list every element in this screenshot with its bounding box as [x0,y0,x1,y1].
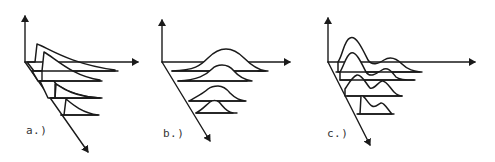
panel-b-label: b.) [163,127,184,140]
waterfall-diagram [0,0,495,162]
trace-a-1 [27,44,115,71]
trace-a-3 [50,84,100,98]
panel-c-label: c.) [327,127,348,140]
trace-b-3 [189,86,245,101]
panel-b [162,20,290,141]
trace-a-4 [61,99,98,115]
trace-b-4 [196,101,233,114]
panel-a-label: a.) [26,124,47,137]
trace-c-4 [358,96,392,114]
panel-c [328,18,475,145]
